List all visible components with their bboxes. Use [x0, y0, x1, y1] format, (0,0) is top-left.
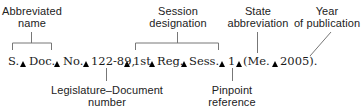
- abbreviated-name-bracket: [13, 32, 52, 50]
- space-marker-icon: [20, 61, 26, 67]
- label-state-abbreviation: State abbreviation: [227, 5, 288, 29]
- year-of-publication-leader: [310, 32, 331, 56]
- space-marker-icon: [83, 61, 89, 67]
- citation-part-year: 2005).: [280, 55, 317, 68]
- label-abbreviated-name: Abbreviated name: [2, 5, 62, 29]
- citation-part-chamber: S.: [8, 55, 19, 68]
- citation-part-document-number: 122-89,: [91, 55, 135, 68]
- space-marker-icon: [236, 61, 242, 67]
- citation-part-session-ordinal: 1st: [133, 55, 151, 68]
- citation-part-doc: Doc.: [29, 55, 55, 68]
- session-designation-bracket: [136, 32, 219, 50]
- label-session-designation: Session designation: [149, 5, 206, 29]
- citation-part-pinpoint: 1: [228, 55, 235, 68]
- label-pinpoint-reference: Pinpoint reference: [208, 84, 255, 108]
- citation-part-reg: Reg.: [157, 55, 183, 68]
- label-legislature-document-number: Legislature–Document number: [51, 84, 163, 108]
- space-marker-icon: [272, 61, 278, 67]
- citation-part-no: No.: [63, 55, 83, 68]
- citation-part-state: (Me.: [243, 55, 270, 68]
- citation-part-sess: Sess.: [189, 55, 219, 68]
- label-year-of-publication: Year of publication: [294, 5, 360, 29]
- space-marker-icon: [219, 61, 225, 67]
